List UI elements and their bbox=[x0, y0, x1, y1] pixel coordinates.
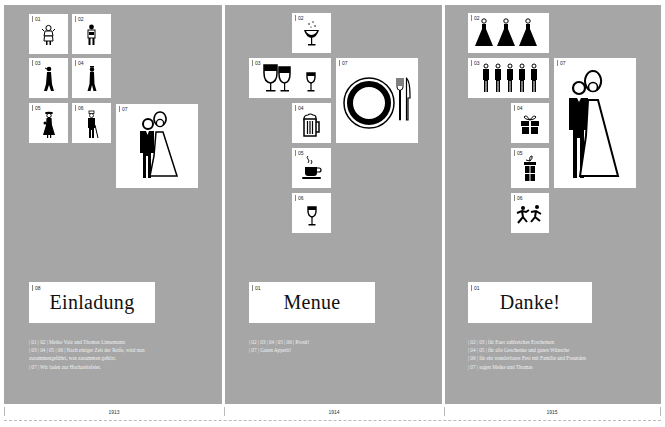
tile-05-woman-with-hat: 05 bbox=[29, 103, 68, 143]
tile-07-plate: 07 bbox=[336, 58, 418, 143]
description-line: | 07 | sagen Meike und Thomas bbox=[468, 363, 586, 371]
tile-04-young-man: 04 bbox=[72, 58, 111, 98]
bride-and-groom-icon bbox=[554, 58, 636, 188]
title-card-einladung: 08 Einladung bbox=[29, 282, 155, 323]
description-line: | 04 | 05 | für alle Geschenke und guten… bbox=[468, 346, 586, 354]
wine-glasses-icon bbox=[249, 58, 331, 98]
bride-and-groom-icon bbox=[116, 104, 198, 188]
groomsmen-icon bbox=[468, 58, 549, 98]
page-title: Menue bbox=[249, 291, 375, 314]
title-card-menue: 01 Menue bbox=[249, 282, 375, 323]
year-label-1914: 1914 bbox=[224, 404, 444, 420]
description-line: | 07 | Wir laden zur Hochzeitsfeier. bbox=[29, 363, 145, 371]
description-line: | 03 | 04 | 05 | 06 | Nach einiger Zeit … bbox=[29, 346, 145, 354]
tile-07-bride-groom: 07 bbox=[116, 104, 198, 188]
boy-figure-icon bbox=[72, 14, 111, 54]
tile-03-young-woman: 03 bbox=[29, 58, 68, 98]
dancing-couple-icon bbox=[511, 193, 549, 233]
tile-03-groomsmen: 03 bbox=[468, 58, 549, 98]
tile-05-tall-gift: 05 bbox=[511, 148, 549, 188]
description-line: | 01 | 02 | Meike Volz und Thomas Linnem… bbox=[29, 338, 145, 346]
plate-fork-knife-icon bbox=[336, 58, 418, 143]
description-line: | 06 | für ein wunderbares Fest mit Fami… bbox=[468, 354, 586, 362]
description-line: zusammengeführt, was zusammen gehört. bbox=[29, 354, 145, 362]
description-line: | 02 | 03 | 04 | 05 | 06 | Prosit! bbox=[249, 338, 309, 346]
description-line: | 02 | 03 | für Euer zahlreiches Erschei… bbox=[468, 338, 586, 346]
young-man-figure-icon bbox=[72, 58, 111, 98]
title-card-danke: 01 Danke! bbox=[468, 282, 592, 323]
tile-04-beer: 04 bbox=[292, 103, 331, 143]
tile-02-bridesmaids: 02 bbox=[468, 13, 549, 53]
divider bbox=[660, 407, 661, 416]
man-with-cane-figure-icon bbox=[72, 103, 111, 143]
bridesmaids-icon bbox=[468, 13, 549, 53]
champagne-glass-icon bbox=[292, 13, 331, 53]
tile-01-girl: 01 bbox=[29, 14, 68, 54]
tile-04-wide-gift: 04 bbox=[511, 103, 549, 143]
tile-02-boy: 02 bbox=[72, 14, 111, 54]
tile-03-wine-glasses: 03 bbox=[249, 58, 331, 98]
coffee-cup-icon bbox=[292, 148, 331, 188]
young-woman-figure-icon bbox=[29, 58, 68, 98]
tile-06-dancing: 06 bbox=[511, 193, 549, 233]
woman-with-hat-figure-icon bbox=[29, 103, 68, 143]
tile-07-bride-groom: 07 bbox=[554, 58, 636, 188]
description-einladung: | 01 | 02 | Meike Volz und Thomas Linnem… bbox=[29, 338, 145, 371]
year-label-1915: 1915 bbox=[444, 404, 660, 420]
wine-glass-icon bbox=[292, 193, 331, 233]
page-title: Danke! bbox=[468, 291, 592, 314]
tall-gift-icon bbox=[511, 148, 549, 188]
tile-05-coffee: 05 bbox=[292, 148, 331, 188]
description-menue: | 02 | 03 | 04 | 05 | 06 | Prosit! | 07 … bbox=[249, 338, 309, 354]
beer-mug-icon bbox=[292, 103, 331, 143]
description-line: | 07 | Guten Appetit! bbox=[249, 346, 309, 354]
girl-figure-icon bbox=[29, 14, 68, 54]
year-label-1913: 1913 bbox=[4, 404, 224, 420]
tile-06-man-with-cane: 06 bbox=[72, 103, 111, 143]
page-title: Einladung bbox=[29, 291, 155, 314]
cut-line bbox=[4, 420, 661, 421]
wide-gift-icon bbox=[511, 103, 549, 143]
description-danke: | 02 | 03 | für Euer zahlreiches Erschei… bbox=[468, 338, 586, 371]
tile-02-champagne: 02 bbox=[292, 13, 331, 53]
tile-06-wine-glass: 06 bbox=[292, 193, 331, 233]
